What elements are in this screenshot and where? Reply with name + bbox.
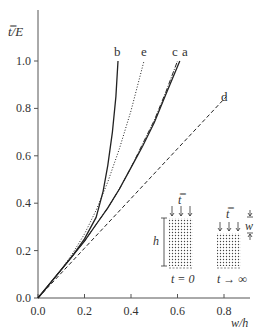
inset-h-label: h [153,234,159,248]
curve-b [38,61,118,298]
inset-w-label: w [245,219,253,233]
chart-container: 0.00.20.40.60.80.00.20.40.60.81.0 t̿/E w… [0,0,271,333]
load-arrows-right [218,222,240,231]
curve-c [38,61,178,298]
y-tick-label: 0.0 [16,291,31,305]
curve-label-d: d [221,89,228,104]
inset-t0-label: t = 0 [171,272,194,286]
y-tick-label: 0.6 [16,149,31,163]
load-arrows-left [170,206,192,216]
specimen-block-final [217,233,241,266]
y-tick-label: 0.4 [16,196,31,210]
series-group [38,61,226,298]
x-tick-label: 0.6 [170,304,185,318]
inset-load-label-left: t̿ [178,193,186,207]
chart-svg: 0.00.20.40.60.80.00.20.40.60.81.0 t̿/E w… [0,0,271,333]
curve-label-b: b [114,44,121,59]
inset-load-label-right: t̿ [226,207,234,221]
x-tick-label: 0.8 [217,304,232,318]
curve-label-a: a [182,44,188,59]
x-tick-label: 0.2 [77,304,92,318]
curve-d [38,97,226,298]
specimen-block-initial [169,218,193,266]
curve-a [38,61,180,298]
curve-label-e: e [141,44,147,59]
curve-e [38,61,144,298]
inset-tinf-label: t → ∞ [217,272,247,286]
y-tick-label: 1.0 [16,54,31,68]
x-axis-label: w/h [231,316,248,330]
inset-final-state: t̿ w t → ∞ [217,207,253,286]
y-tick-label: 0.8 [16,101,31,115]
x-tick-label: 0.4 [124,304,139,318]
curve-label-c: c [172,44,178,59]
inset-initial-state: t̿ h t = 0 [153,193,194,286]
y-axis-label: t̿/E [8,24,23,39]
x-tick-label: 0.0 [31,304,46,318]
y-tick-label: 0.2 [16,244,31,258]
